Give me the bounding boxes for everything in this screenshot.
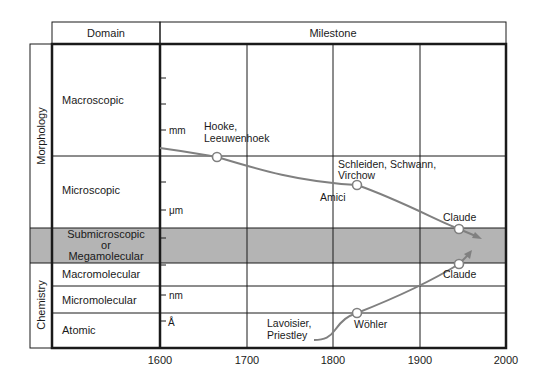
x-tick-1800: 1800 bbox=[321, 354, 345, 366]
label-lavoisier-1: Lavoisier, bbox=[267, 317, 311, 329]
row-micromolecular: Micromolecular bbox=[62, 294, 137, 306]
chemistry-curve bbox=[314, 253, 470, 340]
x-tick-1700: 1700 bbox=[235, 354, 259, 366]
label-hooke-2: Leeuwenhoek bbox=[204, 132, 270, 144]
label-claude-morphology: Claude bbox=[443, 211, 476, 223]
label-hooke-1: Hooke, bbox=[204, 120, 237, 132]
point-schleiden bbox=[353, 181, 362, 190]
label-schleiden-2: Virchow bbox=[338, 169, 376, 181]
row-atomic: Atomic bbox=[62, 324, 96, 336]
scale-um: μm bbox=[169, 205, 183, 216]
scale-angstrom: Å bbox=[168, 316, 175, 328]
point-claude-morphology bbox=[455, 225, 464, 234]
row-macroscopic: Macroscopic bbox=[62, 94, 124, 106]
point-hooke bbox=[213, 153, 222, 162]
scale-nm: nm bbox=[169, 290, 183, 301]
category-morphology: Morphology bbox=[35, 107, 47, 165]
x-tick-2000: 2000 bbox=[494, 354, 518, 366]
row-submicroscopic-3: Megamolecular bbox=[68, 250, 144, 262]
label-claude-chemistry: Claude bbox=[443, 268, 476, 280]
label-wohler: Wöhler bbox=[354, 318, 388, 330]
domain-milestone-diagram: Domain Milestone Morphology Chemistry Ma… bbox=[0, 0, 539, 383]
domain-header: Domain bbox=[87, 27, 125, 39]
row-microscopic: Microscopic bbox=[62, 184, 121, 196]
milestone-header: Milestone bbox=[309, 27, 356, 39]
x-tick-1900: 1900 bbox=[408, 354, 432, 366]
scale-mm: mm bbox=[169, 125, 186, 136]
label-amici: Amici bbox=[320, 191, 346, 203]
x-tick-1600: 1600 bbox=[148, 354, 172, 366]
label-lavoisier-2: Priestley bbox=[267, 329, 308, 341]
point-wohler bbox=[353, 309, 362, 318]
category-chemistry: Chemistry bbox=[35, 280, 47, 330]
row-macromolecular: Macromolecular bbox=[62, 268, 141, 280]
